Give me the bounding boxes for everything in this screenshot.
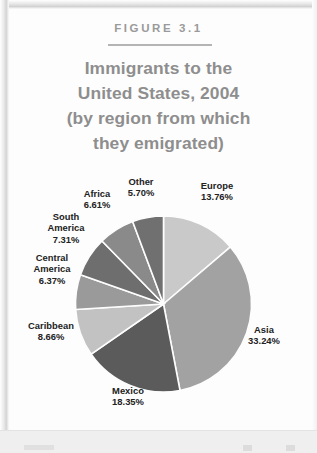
pie-label-europe: Europe 13.76% [184,180,250,203]
pie-label-caribbean: Caribbean 8.66% [12,320,90,343]
pie-label-africa: Africa 6.61% [66,188,128,211]
pie-label-south-america: South America 7.31% [30,211,102,245]
footer-mark-left [24,445,54,450]
pie-label-central-america: Central America 6.37% [14,252,90,286]
page-footer-band [0,430,317,453]
figure-panel: FIGURE 3.1 Immigrants to the United Stat… [0,0,317,430]
pie-label-asia: Asia 33.24% [234,324,294,347]
footer-mark-right2 [286,445,295,451]
pie-label-mexico: Mexico 18.35% [92,385,164,408]
footer-mark-right [243,445,252,451]
